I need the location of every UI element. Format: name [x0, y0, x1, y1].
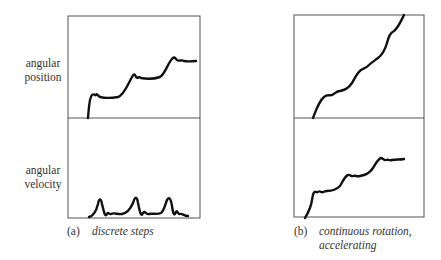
- panel-b-position-curve: [313, 15, 404, 118]
- caption-panel-a: (a) discrete steps: [67, 224, 154, 238]
- caption-text: continuous rotation,: [319, 225, 412, 237]
- caption-text: discrete steps: [92, 225, 154, 237]
- caption-tag: (a): [67, 224, 89, 238]
- caption-panel-b: (b) continuous rotation, accelerating: [294, 224, 412, 252]
- panel-a-position-curve: [88, 57, 196, 118]
- panel-b-velocity-curve: [305, 158, 404, 218]
- caption-tag: (b): [294, 224, 316, 238]
- caption-text-line2: accelerating: [294, 238, 412, 252]
- panel-a-velocity-curve: [89, 198, 188, 217]
- diagram-plots: [0, 0, 441, 260]
